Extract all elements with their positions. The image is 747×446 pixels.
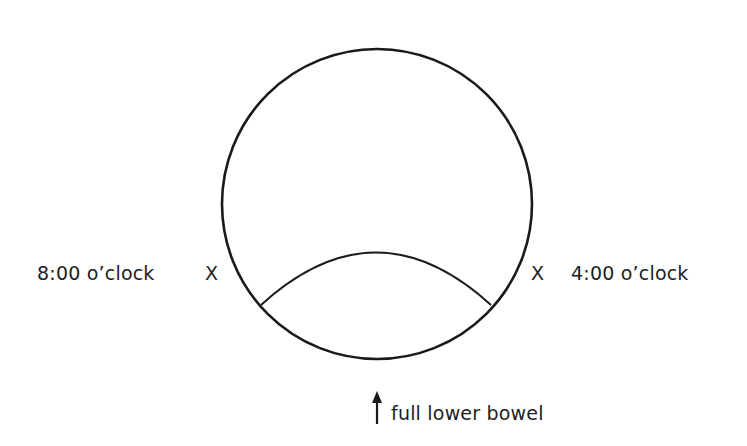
lower-bowel-arc [261,253,491,306]
right-x-marker: X [531,264,544,283]
left-x-marker: X [205,264,218,283]
left-position-label: 8:00 o’clock [37,264,155,283]
diagram-canvas [0,0,747,446]
right-position-label: 4:00 o’clock [571,264,689,283]
full-lower-bowel-label: full lower bowel [391,404,544,423]
arrow-up-icon [372,391,382,424]
outer-circle [222,49,532,359]
